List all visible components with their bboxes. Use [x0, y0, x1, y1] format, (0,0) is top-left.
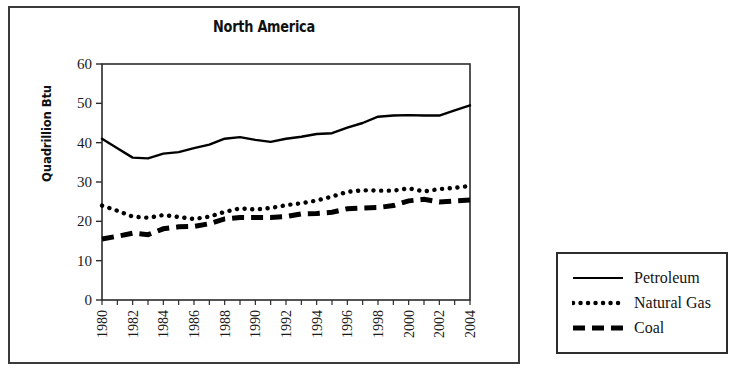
y-axis-tick-label: 10	[77, 253, 92, 269]
y-axis-tick-label: 20	[77, 213, 92, 229]
x-axis-tick-label: 1982	[126, 310, 141, 338]
legend-item[interactable]: Natural Gas	[572, 293, 711, 313]
plot-area: 0102030405060198019821984198619881990199…	[10, 8, 518, 362]
series-line-petroleum	[102, 105, 470, 158]
y-axis-tick-label: 60	[77, 56, 92, 72]
legend-item[interactable]: Coal	[572, 318, 711, 338]
chart-panel: North America Quadrillion Btu 0102030405…	[8, 6, 520, 364]
x-axis-tick-label: 2002	[432, 310, 447, 338]
series-line-natural-gas	[102, 186, 470, 219]
y-axis-tick-label: 40	[77, 135, 92, 151]
x-axis-tick-label: 1998	[371, 310, 386, 338]
legend-item-label: Coal	[634, 319, 664, 337]
x-axis-tick-label: 2000	[402, 310, 417, 338]
x-axis-tick-label: 1984	[156, 310, 171, 338]
legend-box: PetroleumNatural GasCoal	[556, 252, 728, 354]
x-axis-tick-label: 2004	[463, 310, 478, 338]
legend-swatch-dotted	[572, 296, 624, 310]
x-axis-tick-label: 1996	[340, 310, 355, 338]
legend-rows: PetroleumNatural GasCoal	[572, 268, 711, 338]
legend-item[interactable]: Petroleum	[572, 268, 711, 288]
x-axis-tick-label: 1980	[95, 310, 110, 338]
x-axis-tick-label: 1994	[310, 310, 325, 338]
legend-swatch-solid	[572, 271, 624, 285]
legend-item-label: Natural Gas	[634, 294, 711, 312]
y-axis-tick-label: 30	[77, 174, 92, 190]
plot-border	[102, 64, 470, 300]
legend-item-label: Petroleum	[634, 269, 700, 287]
series-line-coal	[102, 199, 470, 239]
x-axis-tick-label: 1992	[279, 310, 294, 338]
x-axis-tick-label: 1986	[187, 310, 202, 338]
x-axis-tick-label: 1988	[218, 310, 233, 338]
y-axis-tick-label: 0	[85, 292, 93, 308]
legend-swatch-dashed	[572, 321, 624, 335]
y-axis-tick-label: 50	[77, 95, 92, 111]
figure-root: North America Quadrillion Btu 0102030405…	[0, 0, 734, 374]
x-axis-tick-label: 1990	[248, 310, 263, 338]
